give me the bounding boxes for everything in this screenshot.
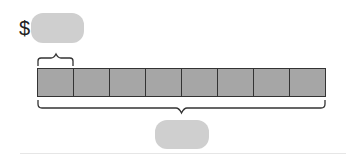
top-brace-icon [38,54,73,66]
tape-cell [254,69,290,96]
tape-cell [218,69,254,96]
tape-cell [290,69,325,96]
divider [20,153,346,154]
tape-cell [146,69,182,96]
tape-cell [110,69,146,96]
tape-cell [182,69,218,96]
tape-cell [38,69,74,96]
tape-cell [74,69,110,96]
bottom-brace-icon [38,100,325,113]
bottom-answer-box[interactable] [155,120,209,149]
tape-bar [37,68,326,97]
